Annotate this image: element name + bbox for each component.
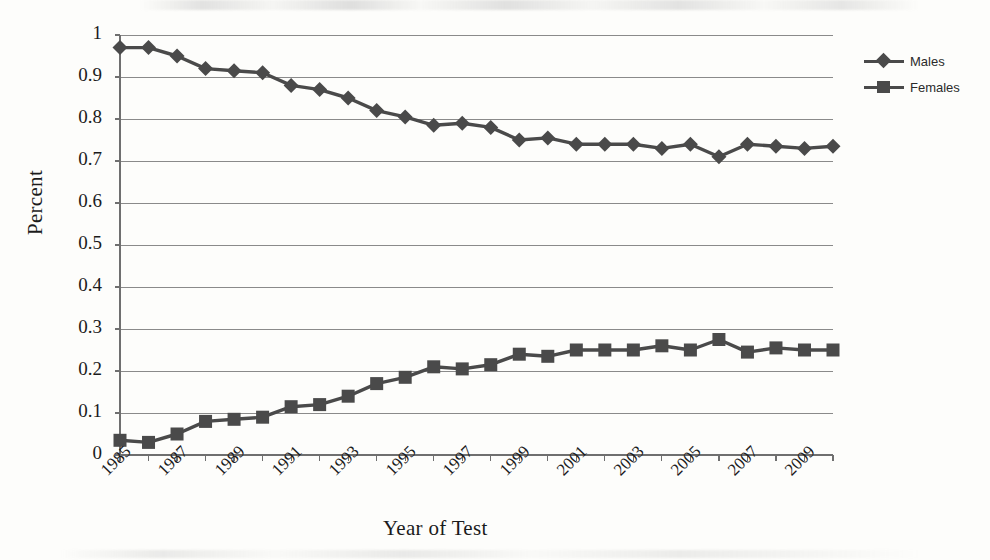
x-axis-tick-label: 1987 [154, 442, 192, 480]
legend-marker-square-icon [864, 79, 904, 95]
x-axis-tick-label: 1995 [382, 442, 420, 480]
legend-label-males: Males [910, 54, 945, 69]
x-axis-tick-labels: 1985198719891991199319951997199920012003… [0, 0, 990, 560]
x-axis-tick-label: 2005 [667, 442, 705, 480]
y-axis-title: Percent [23, 123, 48, 283]
chart-page: 10.90.80.70.60.50.40.30.20.10 1985198719… [0, 0, 990, 560]
x-axis-tick-label: 2001 [553, 442, 591, 480]
x-axis-tick-label: 2007 [724, 442, 762, 480]
legend-label-females: Females [910, 80, 960, 95]
x-axis-tick-label: 2003 [610, 442, 648, 480]
x-axis-title: Year of Test [383, 516, 488, 541]
legend-item-females: Females [864, 74, 960, 100]
legend-marker-diamond-icon [864, 53, 904, 69]
line-chart: 10.90.80.70.60.50.40.30.20.10 1985198719… [0, 0, 990, 560]
x-axis-tick-label: 1991 [268, 442, 306, 480]
x-axis-tick-label: 1993 [325, 442, 363, 480]
x-axis-tick-label: 1989 [211, 442, 249, 480]
chart-legend: Males Females [864, 48, 960, 100]
legend-item-males: Males [864, 48, 960, 74]
x-axis-tick-label: 1985 [97, 442, 135, 480]
x-axis-tick-label: 1999 [496, 442, 534, 480]
x-axis-tick-label: 1997 [439, 442, 477, 480]
x-axis-tick-label: 2009 [781, 442, 819, 480]
